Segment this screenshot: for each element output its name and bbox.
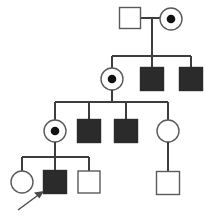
pedigree-canvas [0, 0, 205, 219]
individual-iii-2-affected-male[interactable] [78, 120, 101, 143]
individual-ii-3-affected-male[interactable] [180, 68, 203, 91]
individual-iv-3-unaffected-male[interactable] [78, 171, 100, 193]
proband-arrow-icon [18, 191, 44, 210]
individual-i-2-carrier-female[interactable] [160, 8, 182, 30]
individual-iii-3-affected-male[interactable] [115, 120, 138, 143]
individual-iv-4-unaffected-male[interactable] [157, 172, 180, 195]
generation-iv-group [11, 157, 180, 195]
carrier-dot-icon [167, 15, 176, 24]
individual-iii-1-carrier-female[interactable] [44, 120, 66, 142]
generation-iii-group [44, 102, 179, 172]
generation-i-group [120, 8, 183, 57]
individual-ii-1-carrier-female[interactable] [101, 68, 123, 90]
individual-i-1-unaffected-male[interactable] [120, 8, 141, 29]
individual-iv-1-unaffected-female[interactable] [11, 171, 33, 193]
individual-iv-2-affected-male-proband[interactable] [44, 171, 67, 194]
generation-ii-group [101, 56, 203, 102]
carrier-dot-icon [108, 75, 117, 84]
individual-ii-2-affected-male[interactable] [141, 68, 164, 91]
pedigree-chart [0, 0, 205, 219]
carrier-dot-icon [51, 127, 60, 136]
individual-iii-4-unaffected-female[interactable] [157, 120, 179, 142]
